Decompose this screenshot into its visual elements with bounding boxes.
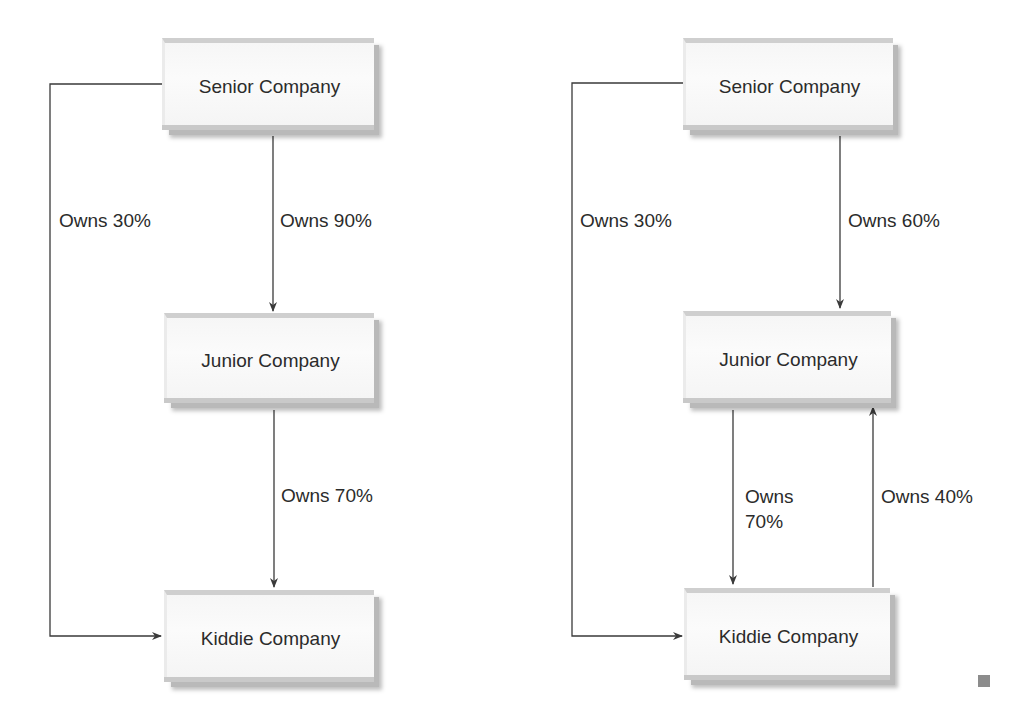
right-junior-company-node: Junior Company <box>683 311 891 403</box>
end-of-figure-square-icon <box>978 675 990 687</box>
node-label: Senior Company <box>199 76 341 98</box>
node-label: Junior Company <box>719 349 857 371</box>
node-label: Kiddie Company <box>201 628 340 650</box>
node-label: Senior Company <box>719 76 861 98</box>
left-edge-senior-to-kiddie <box>50 84 162 636</box>
right-label-kiddie-to-junior: Owns 40% <box>881 486 973 508</box>
label-line: 70% <box>745 511 794 533</box>
right-label-junior-to-kiddie: Owns 70% <box>745 486 794 533</box>
left-junior-company-node: Junior Company <box>164 313 374 403</box>
left-label-junior-to-kiddie: Owns 70% <box>281 485 373 507</box>
left-label-senior-to-junior: Owns 90% <box>280 210 372 232</box>
right-edge-senior-to-kiddie <box>572 83 683 636</box>
right-kiddie-company-node: Kiddie Company <box>684 588 890 680</box>
left-senior-company-node: Senior Company <box>162 38 374 130</box>
left-label-senior-to-kiddie: Owns 30% <box>59 210 151 232</box>
right-label-senior-to-junior: Owns 60% <box>848 210 940 232</box>
right-senior-company-node: Senior Company <box>683 38 893 130</box>
left-kiddie-company-node: Kiddie Company <box>164 590 374 682</box>
label-line: Owns <box>745 486 794 508</box>
right-label-senior-to-kiddie: Owns 30% <box>580 210 672 232</box>
node-label: Kiddie Company <box>719 626 858 648</box>
node-label: Junior Company <box>201 350 339 372</box>
